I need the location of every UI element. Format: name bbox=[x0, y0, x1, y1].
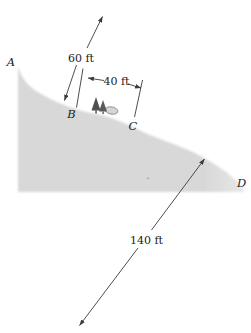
point-label-b: B bbox=[66, 107, 75, 121]
point-label-a: A bbox=[6, 55, 15, 69]
hill-speck bbox=[147, 178, 150, 180]
measure-60ft-label: 60 ft bbox=[68, 52, 95, 65]
point-label-c: C bbox=[129, 119, 138, 133]
point-label-d: D bbox=[236, 176, 246, 190]
measure-140ft-label: 140 ft bbox=[130, 234, 164, 247]
diagram-canvas: A B C D 60 ft 40 ft 140 ft bbox=[0, 0, 251, 333]
measure-40ft-label: 40 ft bbox=[104, 75, 131, 88]
tick-mark-c bbox=[135, 80, 143, 117]
trees-rock-icon bbox=[92, 97, 119, 115]
hillside-diagram: A B C D 60 ft 40 ft 140 ft bbox=[0, 0, 251, 333]
tick-mark-b bbox=[77, 69, 84, 108]
